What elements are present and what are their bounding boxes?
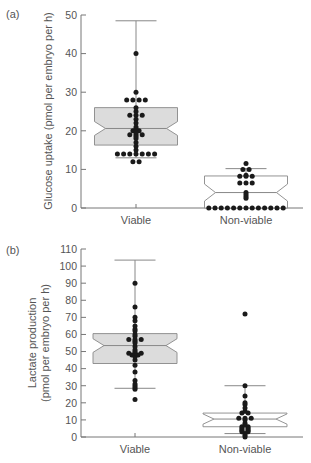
data-point: [236, 416, 241, 421]
data-point: [121, 151, 126, 156]
data-point: [127, 132, 132, 137]
y-tick-label: 40: [65, 362, 77, 374]
data-point: [256, 206, 261, 211]
data-point: [237, 174, 242, 179]
data-point: [146, 151, 151, 156]
data-point: [243, 400, 248, 405]
box-non-viable: [203, 311, 287, 439]
y-tick-label: 90: [65, 277, 77, 289]
data-point: [115, 151, 120, 156]
data-point: [133, 378, 138, 383]
data-point: [143, 97, 148, 102]
y-axis-b: 0102030405060708090100110: [59, 243, 86, 443]
data-point: [140, 132, 145, 137]
data-point: [140, 151, 145, 156]
y-tick-label: 30: [65, 380, 77, 392]
data-point: [133, 305, 138, 310]
data-point: [126, 337, 131, 342]
data-point: [137, 97, 142, 102]
y-axis-title-line: (pmol per embryo per h): [39, 284, 51, 402]
y-tick-label: 0: [71, 431, 77, 443]
data-point: [262, 206, 267, 211]
data-point: [275, 206, 280, 211]
y-tick-label: 70: [65, 311, 77, 323]
data-point: [127, 113, 132, 118]
data-point: [139, 351, 144, 356]
data-point: [244, 180, 249, 185]
y-axis-title-a: Glucose uptake (pmol per embryo per h): [42, 12, 54, 209]
data-point: [133, 370, 138, 375]
data-point: [127, 151, 132, 156]
data-point: [126, 351, 131, 356]
data-point: [250, 180, 255, 185]
data-point: [243, 311, 248, 316]
y-tick-label: 10: [65, 163, 77, 175]
data-point: [139, 337, 144, 342]
box-plot-figure: (a) Glucose uptake (pmol per embryo per …: [0, 0, 311, 463]
data-point: [133, 281, 138, 286]
data-point: [250, 174, 255, 179]
data-point: [206, 206, 211, 211]
data-point: [240, 167, 245, 172]
data-point: [130, 159, 135, 164]
data-point: [140, 113, 145, 118]
x-category-label: Non-viable: [219, 443, 272, 455]
y-tick-label: 0: [71, 202, 77, 214]
data-point: [219, 206, 224, 211]
panel-b-lactate-production: (b) Lactate production(pmol per embryo p…: [6, 243, 303, 455]
data-point: [133, 397, 138, 402]
data-point: [244, 206, 249, 211]
x-category-label: Non-viable: [220, 214, 273, 226]
data-point: [268, 206, 273, 211]
y-tick-label: 40: [65, 47, 77, 59]
data-point: [134, 51, 139, 56]
y-tick-label: 20: [65, 125, 77, 137]
box-viable: [95, 21, 178, 164]
data-point: [124, 97, 129, 102]
data-point: [231, 206, 236, 211]
data-point: [130, 97, 135, 102]
data-point: [244, 161, 249, 166]
x-category-label: Viable: [121, 214, 151, 226]
data-point: [244, 196, 249, 201]
y-tick-label: 50: [65, 345, 77, 357]
data-point: [243, 383, 248, 388]
data-point: [250, 206, 255, 211]
data-point: [134, 105, 139, 110]
data-point: [243, 416, 248, 421]
panel-a-label: (a): [6, 8, 19, 20]
y-tick-label: 60: [65, 328, 77, 340]
data-point: [243, 393, 248, 398]
x-category-label: Viable: [120, 443, 150, 455]
data-point: [134, 90, 139, 95]
y-tick-label: 20: [65, 397, 77, 409]
y-axis-a: 01020304050: [65, 9, 86, 214]
data-point: [152, 151, 157, 156]
y-tick-label: 30: [65, 86, 77, 98]
data-point: [133, 323, 138, 328]
y-tick-label: 10: [65, 414, 77, 426]
y-tick-label: 100: [59, 260, 77, 272]
boxes-a: [95, 21, 288, 211]
data-point: [213, 206, 218, 211]
y-tick-label: 110: [60, 243, 77, 255]
data-point: [137, 159, 142, 164]
data-point: [133, 315, 138, 320]
data-point: [225, 206, 230, 211]
y-axis-title-line: Lactate production: [26, 298, 38, 389]
data-point: [133, 363, 138, 368]
y-tick-label: 50: [65, 9, 77, 21]
panel-b-label: (b): [6, 244, 19, 256]
box-viable: [93, 260, 177, 402]
data-point: [244, 174, 249, 179]
y-axis-title-b: Lactate production(pmol per embryo per h…: [26, 284, 51, 402]
data-point: [281, 206, 286, 211]
x-axis-b: ViableNon-viable: [81, 433, 303, 455]
y-tick-label: 80: [65, 294, 77, 306]
data-point: [249, 416, 254, 421]
data-point: [237, 180, 242, 185]
data-point: [134, 134, 139, 139]
data-point: [247, 167, 252, 172]
panel-a-glucose-uptake: (a) Glucose uptake (pmol per embryo per …: [6, 8, 303, 226]
boxes-b: [93, 260, 287, 439]
